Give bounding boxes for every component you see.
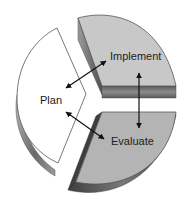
- label-implement: Implement: [110, 51, 161, 62]
- evaluate-segment-face: [76, 112, 176, 184]
- label-plan: Plan: [40, 95, 62, 106]
- cycle-diagram: [0, 0, 192, 210]
- evaluate-segment: [68, 112, 176, 192]
- label-evaluate: Evaluate: [111, 136, 154, 147]
